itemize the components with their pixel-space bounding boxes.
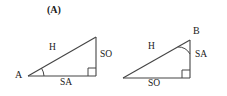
panel-a: (A) A H SA SO — [0, 0, 114, 96]
triangle-b-adjacent-label: SA — [195, 50, 207, 60]
triangle-b-hypotenuse-label: H — [148, 42, 155, 52]
panel-b: (B) — [113, 0, 227, 96]
triangle-a-vertex-label-a: A — [15, 70, 22, 80]
triangle-a-hypotenuse-label: H — [49, 43, 56, 53]
triangle-b-vertex-label-b: B — [193, 26, 200, 36]
triangle-b-opposite-label: SO — [148, 79, 160, 89]
panel-a-caption: (A) — [47, 4, 61, 15]
triangle-a-opposite-label: SO — [100, 50, 112, 60]
figure-canvas: (A) A H SA SO (B) B H SA SO — [0, 0, 227, 96]
triangle-a-adjacent-label: SA — [60, 78, 72, 88]
